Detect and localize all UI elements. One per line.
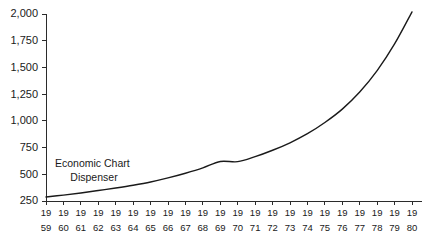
x-axis-tick-label-year: 67 xyxy=(180,222,191,233)
x-axis-tick-label-century: 19 xyxy=(145,207,156,218)
x-axis-tick-label-year: 72 xyxy=(267,222,278,233)
x-axis-tick-label-century: 19 xyxy=(180,207,191,218)
annotation-line-2: Dispenser xyxy=(70,171,118,183)
y-axis-tick-label: 750 xyxy=(20,141,38,153)
x-axis-tick-label-year: 78 xyxy=(372,222,383,233)
y-axis-tick-label: 250 xyxy=(20,194,38,206)
y-axis-tick-label: 500 xyxy=(20,168,38,180)
x-axis-tick-label-year: 73 xyxy=(285,222,296,233)
x-axis-tick-label-century: 19 xyxy=(163,207,174,218)
x-axis-tick-label-century: 19 xyxy=(337,207,348,218)
x-axis-tick-label-century: 19 xyxy=(285,207,296,218)
x-axis-tick-label-century: 19 xyxy=(389,207,400,218)
chart-canvas: 2,0001,7501,5001,2501,000750500250 19591… xyxy=(0,0,424,244)
x-axis-tick-label-year: 76 xyxy=(337,222,348,233)
x-axis-tick-label-year: 60 xyxy=(58,222,69,233)
x-axis-tick-label-year: 69 xyxy=(215,222,226,233)
x-axis-tick-label-year: 61 xyxy=(76,222,87,233)
x-axis-tick-label-year: 79 xyxy=(389,222,400,233)
x-axis-tick-label-century: 19 xyxy=(41,207,52,218)
x-axis-tick-label-year: 70 xyxy=(232,222,243,233)
x-axis-tick-label-century: 19 xyxy=(128,207,139,218)
x-axis-tick-label-year: 77 xyxy=(354,222,365,233)
x-axis-tick-label-century: 19 xyxy=(267,207,278,218)
x-axis-tick-label-year: 63 xyxy=(110,222,121,233)
y-axis-tick-label: 2,000 xyxy=(10,7,38,19)
x-axis-tick-label-year: 59 xyxy=(41,222,52,233)
x-axis-tick-label-century: 19 xyxy=(320,207,331,218)
x-axis-tick-label-year: 62 xyxy=(93,222,104,233)
annotation-line-1: Economic Chart xyxy=(55,157,130,169)
x-axis-tick-label-year: 66 xyxy=(163,222,174,233)
x-axis-tick-label-year: 74 xyxy=(302,222,313,233)
x-axis-tick-label-century: 19 xyxy=(354,207,365,218)
x-axis-tick-label-year: 71 xyxy=(250,222,261,233)
x-axis-tick-label-year: 68 xyxy=(198,222,209,233)
x-axis-tick-label-year: 65 xyxy=(145,222,156,233)
x-axis-tick-label-century: 19 xyxy=(215,207,226,218)
y-axis-tick-label: 1,000 xyxy=(10,114,38,126)
x-axis-tick-label-year: 75 xyxy=(320,222,331,233)
x-axis-tick-label-century: 19 xyxy=(76,207,87,218)
x-axis-tick-label-century: 19 xyxy=(110,207,121,218)
y-axis-tick-label: 1,500 xyxy=(10,61,38,73)
x-axis-tick-label-century: 19 xyxy=(250,207,261,218)
x-axis-tick-label-year: 64 xyxy=(128,222,139,233)
economic-chart: 2,0001,7501,5001,2501,000750500250 19591… xyxy=(0,0,424,244)
x-axis-tick-label-century: 19 xyxy=(302,207,313,218)
y-axis-tick-label: 1,750 xyxy=(10,34,38,46)
x-axis-tick-label-century: 19 xyxy=(232,207,243,218)
x-axis-tick-label-century: 19 xyxy=(93,207,104,218)
x-axis-tick-label-century: 19 xyxy=(198,207,209,218)
x-axis-tick-label-year: 80 xyxy=(407,222,418,233)
x-axis-tick-label-century: 19 xyxy=(58,207,69,218)
x-axis-tick-label-century: 19 xyxy=(407,207,418,218)
y-axis-tick-label: 1,250 xyxy=(10,88,38,100)
x-axis-tick-label-century: 19 xyxy=(372,207,383,218)
